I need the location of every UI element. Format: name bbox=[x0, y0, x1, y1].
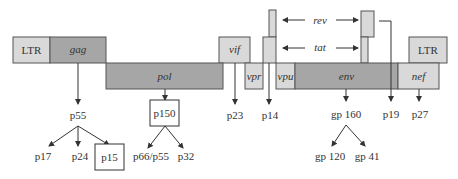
p150-to-p66p55-arrow bbox=[148, 126, 165, 148]
p55-to-p15-arrow bbox=[78, 126, 109, 145]
gp41-label: gp 41 bbox=[355, 150, 380, 162]
rev-annotation: rev bbox=[283, 14, 358, 26]
p17-label: p17 bbox=[35, 150, 52, 162]
p150-box: p150 bbox=[150, 100, 179, 126]
gp160-to-gp120-arrow bbox=[332, 125, 346, 146]
ltr-right-box: LTR bbox=[409, 37, 447, 63]
tat-annotation: tat bbox=[283, 41, 358, 53]
nef-box: nef bbox=[398, 63, 439, 89]
p19-label: p19 bbox=[383, 108, 400, 120]
ltr-left-box: LTR bbox=[13, 37, 50, 63]
env-label: env bbox=[339, 70, 354, 82]
p14-label: p14 bbox=[262, 109, 279, 121]
tat-label: tat bbox=[314, 41, 327, 53]
p15-box: p15 bbox=[95, 144, 124, 170]
p27-label: p27 bbox=[412, 108, 429, 120]
nef-label: nef bbox=[412, 70, 427, 82]
p55-label: p55 bbox=[70, 109, 87, 121]
ltr-right-label: LTR bbox=[418, 44, 438, 56]
p66p55-label: p66/p55 bbox=[133, 150, 170, 162]
gp160-label: gp 160 bbox=[331, 108, 362, 120]
vif-label: vif bbox=[229, 43, 242, 55]
hiv-genome-diagram: LTR gag vif LTR rev tat pol vpr bbox=[0, 0, 458, 179]
pol-label: pol bbox=[156, 70, 171, 82]
p150-label: p150 bbox=[154, 107, 177, 119]
gag-label: gag bbox=[70, 43, 87, 55]
tat-rev-exon-2 bbox=[361, 11, 374, 63]
gp120-label: gp 120 bbox=[315, 150, 346, 162]
p150-to-p32-arrow bbox=[165, 126, 183, 148]
ltr-left-label: LTR bbox=[22, 44, 42, 56]
env-box: env bbox=[295, 63, 398, 89]
p15-label: p15 bbox=[101, 151, 118, 163]
rev-label: rev bbox=[313, 14, 327, 26]
p23-label: p23 bbox=[227, 109, 244, 121]
vpu-box: vpu bbox=[276, 63, 295, 89]
pol-box: pol bbox=[106, 63, 223, 89]
gag-box: gag bbox=[50, 37, 106, 63]
gp160-to-gp41-arrow bbox=[346, 125, 365, 146]
vif-box: vif bbox=[219, 37, 250, 63]
vpr-label: vpr bbox=[247, 70, 262, 82]
p32-label: p32 bbox=[178, 150, 195, 162]
p55-to-p17-arrow bbox=[49, 126, 78, 146]
vpr-box: vpr bbox=[245, 63, 263, 89]
p24-label: p24 bbox=[72, 150, 89, 162]
tat-rev-exon-1 bbox=[263, 10, 276, 63]
vpu-label: vpu bbox=[278, 70, 294, 82]
